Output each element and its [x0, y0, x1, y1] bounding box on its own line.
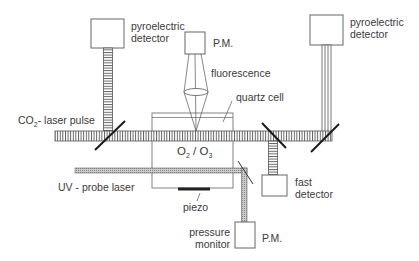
label-pm-bottom: P.M.: [262, 232, 282, 244]
label-fluorescence: fluorescence: [211, 67, 271, 79]
label-pyro-right: pyroelectric detector: [350, 16, 404, 40]
beam-to-fast-detector: [269, 141, 278, 175]
label-co2-laser-pulse: CO2- laser pulse: [18, 114, 95, 131]
uv-probe-beam: [75, 168, 247, 173]
piezo-leader: [197, 193, 200, 201]
label-quartz-cell: quartz cell: [236, 91, 284, 103]
uv-probe-beam-down: [242, 168, 248, 222]
piezo-element: [178, 188, 210, 191]
pyro-detector-left-box: [91, 19, 124, 48]
pyro-detector-right-box: [310, 15, 343, 45]
label-uv-probe-laser: UV - probe laser: [58, 181, 134, 193]
co2-beam-to-left-pyro: [104, 48, 113, 131]
pm-bottom-box: [235, 222, 255, 248]
pm-top-box: [185, 32, 205, 54]
label-gas-mixture: O2 / O3: [177, 145, 212, 162]
label-fast-detector: fast detector: [295, 176, 333, 200]
label-pyro-left: pyroelectric detector: [131, 20, 185, 44]
co2-beam-to-right-pyro: [322, 45, 331, 132]
label-pm-top: P.M.: [213, 37, 233, 49]
fast-detector-box: [262, 175, 287, 196]
lens: [184, 89, 208, 96]
label-piezo: piezo: [183, 201, 208, 213]
label-pressure-monitor: pressure monitor: [178, 226, 230, 250]
co2-laser-beam: [55, 131, 332, 141]
